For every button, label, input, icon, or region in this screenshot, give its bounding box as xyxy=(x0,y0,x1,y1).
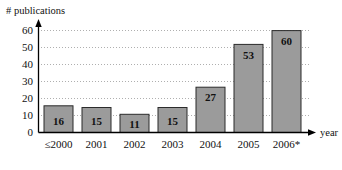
bar-chart-figure: # publications 60 50 40 30 20 10 0 xyxy=(0,0,342,170)
bar-value-4: 27 xyxy=(205,91,217,103)
y-axis-arrow-icon xyxy=(35,19,41,27)
y-axis-title: # publications xyxy=(6,5,65,16)
y-tick-label-30: 30 xyxy=(22,75,34,87)
x-tick-label-0: ≤2000 xyxy=(44,138,73,150)
y-tick-label-20: 20 xyxy=(22,92,34,104)
y-tick-label-50: 50 xyxy=(22,41,34,53)
y-tick-label-0: 0 xyxy=(28,126,34,138)
y-tick-label-60: 60 xyxy=(22,24,34,36)
x-tick-label-1: 2001 xyxy=(86,138,108,150)
x-axis-tick-labels: ≤2000 2001 2002 2003 2004 2005 2006* xyxy=(44,138,300,150)
chart-canvas: # publications 60 50 40 30 20 10 0 xyxy=(0,0,342,170)
bar-value-1: 15 xyxy=(91,115,103,127)
bar-value-6: 60 xyxy=(281,35,293,47)
bar-value-3: 15 xyxy=(167,115,179,127)
y-axis-tick-labels: 60 50 40 30 20 10 0 xyxy=(22,24,34,138)
bar-value-0: 16 xyxy=(53,115,65,127)
gridlines xyxy=(38,31,310,116)
bar-value-5: 53 xyxy=(243,49,255,61)
bar-value-2: 11 xyxy=(129,118,139,130)
x-tick-label-5: 2005 xyxy=(238,138,261,150)
x-tick-label-6: 2006* xyxy=(273,138,301,150)
x-tick-label-4: 2004 xyxy=(200,138,223,150)
y-tick-label-10: 10 xyxy=(22,109,34,121)
x-tick-label-2: 2002 xyxy=(124,138,146,150)
x-tick-label-3: 2003 xyxy=(162,138,185,150)
y-tick-label-40: 40 xyxy=(22,58,34,70)
x-axis-title: year xyxy=(320,127,339,138)
x-axis-arrow-icon xyxy=(308,129,316,135)
